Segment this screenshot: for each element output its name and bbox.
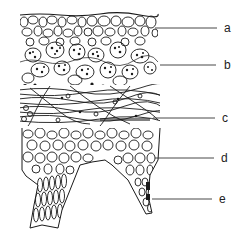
lower-cortex-layer bbox=[23, 128, 155, 222]
upper-surface bbox=[20, 13, 158, 17]
label-b: b bbox=[224, 59, 231, 71]
cross-section-diagram bbox=[0, 0, 246, 246]
medulla-dark-band bbox=[100, 118, 150, 121]
upper-cortex-layer bbox=[20, 16, 158, 46]
label-e: e bbox=[219, 193, 226, 205]
label-a: a bbox=[224, 22, 231, 34]
label-d: d bbox=[221, 152, 228, 164]
leader-lines bbox=[152, 28, 217, 199]
algal-layer bbox=[20, 42, 158, 88]
label-c: c bbox=[222, 112, 228, 124]
